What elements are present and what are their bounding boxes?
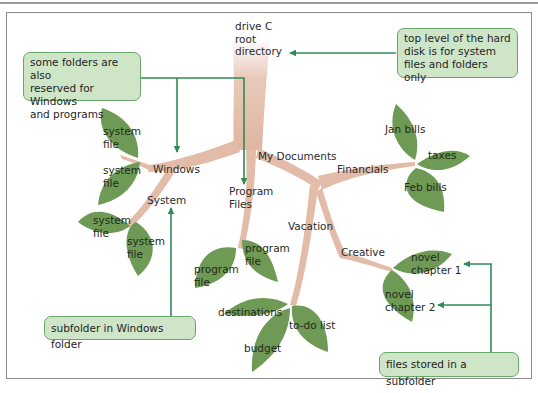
file-label-line1: novel	[385, 288, 435, 301]
folder-my-documents: My Documents	[258, 150, 336, 163]
file-destinations: destinations	[218, 306, 282, 319]
file-program-file-1: program file	[194, 263, 239, 288]
callout-line1: top level of the hard	[404, 32, 511, 45]
file-label-line2: file	[245, 255, 290, 268]
file-label-line2: file	[103, 177, 141, 190]
file-program-file-2: program file	[245, 242, 290, 267]
file-label-line2: chapter 1	[411, 264, 461, 277]
folder-vacation: Vacation	[288, 220, 333, 233]
file-label-line1: program	[245, 242, 290, 255]
file-label-line2: file	[93, 227, 131, 240]
callout-files-subfolder: files stored in a subfolder	[379, 352, 519, 377]
root-label-line2: root	[235, 33, 282, 46]
file-label-line1: novel	[411, 251, 461, 264]
file-label-line1: system	[103, 164, 141, 177]
file-taxes: taxes	[428, 149, 456, 162]
root-directory-label: drive C root directory	[235, 20, 282, 58]
program-files-line1: Program	[229, 185, 273, 198]
folder-creative: Creative	[341, 246, 385, 259]
program-files-line2: Files	[229, 198, 273, 211]
file-label-line1: system	[127, 235, 165, 248]
callout-subfolder-windows: subfolder in Windows folder	[44, 316, 196, 340]
callout-line2: reserved for Windows	[30, 82, 134, 108]
callout-line2: disk is for system	[404, 45, 511, 58]
root-label-line3: directory	[235, 45, 282, 58]
file-label-line2: file	[103, 138, 141, 151]
file-label-line1: system	[103, 125, 141, 138]
root-label-line1: drive C	[235, 20, 282, 33]
callout-line3: and programs	[30, 108, 134, 121]
file-jan-bills: Jan bills	[385, 123, 425, 136]
file-novel-chapter-1: novel chapter 1	[411, 251, 461, 276]
file-label-line1: program	[194, 263, 239, 276]
file-novel-chapter-2: novel chapter 2	[385, 288, 435, 313]
file-system-file-2: system file	[103, 164, 141, 189]
callout-line3: files and folders only	[404, 58, 511, 84]
folder-program-files: Program Files	[229, 185, 273, 210]
folder-windows: Windows	[153, 163, 200, 176]
callout-reserved-folders: some folders are also reserved for Windo…	[23, 52, 141, 101]
callout-top-level: top level of the hard disk is for system…	[397, 28, 518, 78]
folder-system: System	[147, 194, 186, 207]
arrow-to-novel-chapter-1	[464, 264, 491, 353]
file-label-line2: file	[127, 248, 165, 261]
file-system-file-3: system file	[93, 214, 131, 239]
file-feb-bills: Feb bills	[404, 181, 447, 194]
file-system-file-1: system file	[103, 125, 141, 150]
folder-financials: Financials	[337, 163, 388, 176]
file-system-file-4: system file	[127, 235, 165, 260]
file-label-line1: system	[93, 214, 131, 227]
file-label-line2: chapter 2	[385, 301, 435, 314]
callout-line1: some folders are also	[30, 56, 134, 82]
file-budget: budget	[244, 342, 281, 355]
file-label-line2: file	[194, 276, 239, 289]
file-todo-list: to-do list	[289, 319, 335, 332]
